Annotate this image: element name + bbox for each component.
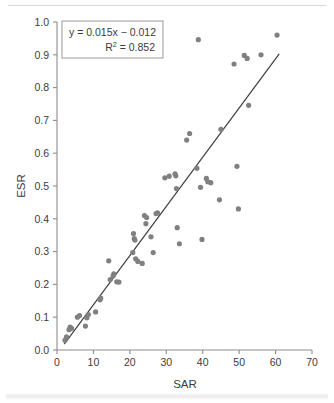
data-point <box>144 215 149 220</box>
data-point <box>111 271 116 276</box>
data-point <box>167 174 172 179</box>
x-axis-tick-label: 60 <box>270 356 282 368</box>
y-axis-tick-label: 0.7 <box>34 114 49 126</box>
page-bottom-artifact <box>6 393 328 400</box>
y-axis-tick-label: 0.3 <box>34 245 49 257</box>
axis-lines <box>57 22 312 350</box>
data-point <box>93 309 98 314</box>
y-axis-tick-label: 0.9 <box>34 49 49 61</box>
y-axis-tick-label: 0.6 <box>34 147 49 159</box>
y-axis-tick-label: 0.1 <box>34 311 49 323</box>
x-axis-tick-label: 0 <box>54 356 60 368</box>
data-point <box>258 52 263 57</box>
data-point <box>246 103 251 108</box>
x-axis-tick-label: 30 <box>160 356 172 368</box>
data-point <box>194 166 199 171</box>
data-point <box>64 334 69 339</box>
r-squared-value: = 0.852 <box>117 41 155 53</box>
data-point <box>130 250 135 255</box>
x-axis-ticks <box>57 350 312 354</box>
regression-line <box>64 54 279 344</box>
y-axis-tick-label: 0.5 <box>34 180 49 192</box>
x-axis-tick-label: 40 <box>197 356 209 368</box>
equation-line: y = 0.015x − 0.012 <box>69 26 156 38</box>
data-point <box>175 225 180 230</box>
y-axis-tick-label: 0.2 <box>34 278 49 290</box>
data-point <box>208 180 213 185</box>
r-squared-line: R2 = 0.852 <box>105 40 155 53</box>
x-axis-tick-label: 50 <box>233 356 245 368</box>
x-axis-tick-label: 10 <box>88 356 100 368</box>
data-point <box>199 237 204 242</box>
data-point <box>198 185 203 190</box>
data-point <box>187 131 192 136</box>
data-point <box>274 33 279 38</box>
data-point <box>245 56 250 61</box>
data-points-group <box>62 33 279 343</box>
figure-container: 0.00.10.20.30.40.50.60.70.80.91.0 010203… <box>0 0 334 403</box>
x-axis-tick-labels: 010203040506070 <box>54 356 318 368</box>
equation-annotation: y = 0.015x − 0.012 R2 = 0.852 <box>62 21 163 58</box>
data-point <box>184 137 189 142</box>
data-point <box>151 250 156 255</box>
scatter-plot: 0.00.10.20.30.40.50.60.70.80.91.0 010203… <box>0 0 334 403</box>
data-point <box>173 173 178 178</box>
data-point <box>196 37 201 42</box>
x-axis-title: SAR <box>173 378 197 390</box>
data-point <box>218 127 223 132</box>
y-axis-ticks <box>53 22 57 350</box>
data-point <box>77 313 82 318</box>
x-axis-tick-label: 70 <box>306 356 318 368</box>
y-axis-tick-label: 0.4 <box>34 213 49 225</box>
x-axis-tick-label: 20 <box>124 356 136 368</box>
data-point <box>106 258 111 263</box>
data-point <box>116 280 121 285</box>
data-point <box>83 323 88 328</box>
data-point <box>174 186 179 191</box>
data-point <box>155 210 160 215</box>
data-point <box>236 206 241 211</box>
data-point <box>143 221 148 226</box>
data-point <box>148 234 153 239</box>
data-point <box>69 326 74 331</box>
y-axis-title: ESR <box>15 174 27 198</box>
data-point <box>217 197 222 202</box>
data-point <box>231 61 236 66</box>
data-point <box>234 164 239 169</box>
data-point <box>98 296 103 301</box>
data-point <box>177 241 182 246</box>
data-point <box>86 312 91 317</box>
data-point <box>131 231 136 236</box>
data-point <box>132 238 137 243</box>
y-axis-tick-label: 1.0 <box>34 16 49 28</box>
data-point <box>140 261 145 266</box>
y-axis-tick-labels: 0.00.10.20.30.40.50.60.70.80.91.0 <box>34 16 49 356</box>
y-axis-tick-label: 0.0 <box>34 344 49 356</box>
y-axis-tick-label: 0.8 <box>34 81 49 93</box>
